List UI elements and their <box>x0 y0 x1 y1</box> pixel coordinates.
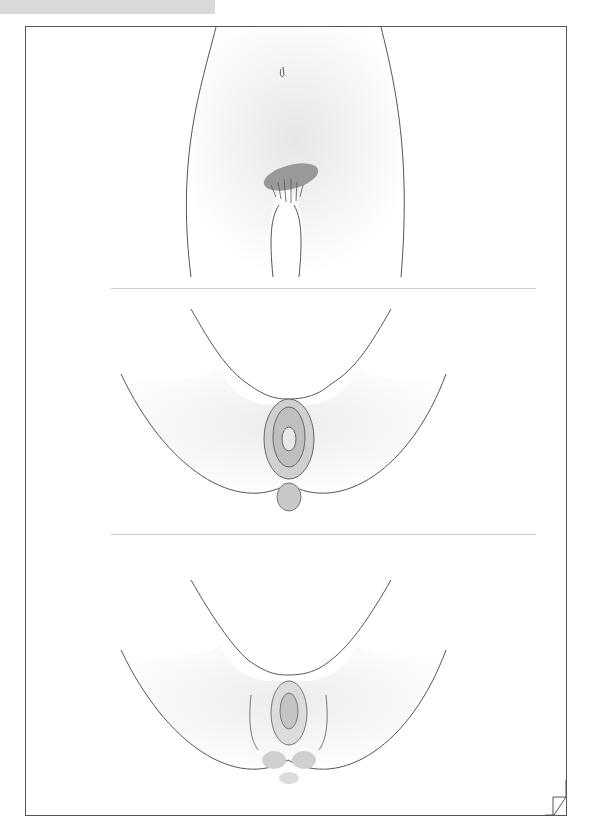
panel-front-view <box>26 27 566 289</box>
perineal-view-simple-illustration <box>26 535 566 815</box>
perineal-view-detailed-illustration <box>26 289 566 534</box>
page-corner-fold-icon <box>545 780 570 818</box>
figure-frame <box>25 26 567 816</box>
panel-perineal-view-detailed <box>26 289 566 534</box>
front-view-illustration <box>26 27 566 289</box>
panel-perineal-view-simple <box>26 535 566 815</box>
header-strip <box>0 0 215 14</box>
